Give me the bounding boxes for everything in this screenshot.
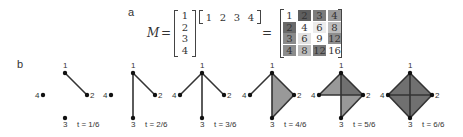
- node-label-3: 3: [270, 120, 275, 129]
- node-label-1: 1: [131, 61, 136, 70]
- node-label-4: 4: [380, 91, 385, 100]
- graph-edge: [180, 73, 202, 95]
- node-label-3: 3: [63, 120, 68, 129]
- graph-edge: [133, 73, 155, 95]
- graph-panel: 1234t = 5/6: [311, 61, 376, 129]
- graph-sequence: 1234t = 1/61234t = 2/61234t = 3/61234t =…: [0, 0, 463, 137]
- time-step-label: t = 2/6: [145, 120, 168, 129]
- time-step-label: t = 6/6: [422, 120, 445, 129]
- node-label-1: 1: [339, 61, 344, 70]
- node-label-3: 3: [200, 120, 205, 129]
- node-label-4: 4: [103, 91, 108, 100]
- node-label-3: 3: [131, 120, 136, 129]
- graph-panel: 1234t = 4/6: [242, 61, 307, 129]
- node-label-2: 2: [90, 91, 95, 100]
- graph-panel: 1234t = 2/6: [103, 61, 168, 129]
- node-label-4: 4: [311, 91, 316, 100]
- graph-panel: 1234t = 6/6: [380, 61, 445, 129]
- graph-node-4: [317, 93, 321, 97]
- time-step-label: t = 3/6: [214, 120, 237, 129]
- graph-node-1: [339, 71, 343, 75]
- graph-node-1: [63, 71, 67, 75]
- graph-node-1: [131, 71, 135, 75]
- node-label-1: 1: [270, 61, 275, 70]
- graph-node-2: [222, 93, 226, 97]
- node-label-3: 3: [408, 120, 413, 129]
- graph-node-4: [178, 93, 182, 97]
- graph-edge: [202, 73, 224, 95]
- node-label-2: 2: [435, 91, 440, 100]
- graph-node-2: [153, 93, 157, 97]
- time-step-label: t = 5/6: [353, 120, 376, 129]
- graph-node-1: [200, 71, 204, 75]
- graph-node-4: [386, 93, 390, 97]
- node-label-4: 4: [35, 91, 40, 100]
- graph-node-2: [292, 93, 296, 97]
- node-label-4: 4: [172, 91, 177, 100]
- node-label-2: 2: [366, 91, 371, 100]
- graph-node-1: [270, 71, 274, 75]
- node-label-4: 4: [242, 91, 247, 100]
- graph-node-2: [361, 93, 365, 97]
- graph-edge: [250, 73, 272, 95]
- node-label-1: 1: [408, 61, 413, 70]
- graph-node-2: [430, 93, 434, 97]
- graph-node-2: [85, 93, 89, 97]
- time-step-label: t = 4/6: [284, 120, 307, 129]
- node-label-3: 3: [339, 120, 344, 129]
- graph-node-4: [109, 93, 113, 97]
- node-label-2: 2: [227, 91, 232, 100]
- graph-panel: 1234t = 1/6: [35, 61, 100, 129]
- node-label-1: 1: [200, 61, 205, 70]
- time-step-label: t = 1/6: [77, 120, 100, 129]
- filled-triangle: [272, 73, 294, 118]
- graph-panel: 1234t = 3/6: [172, 61, 237, 129]
- graph-edge: [65, 73, 87, 95]
- graph-node-4: [41, 93, 45, 97]
- node-label-2: 2: [297, 91, 302, 100]
- node-label-2: 2: [158, 91, 163, 100]
- node-label-1: 1: [63, 61, 68, 70]
- graph-node-1: [408, 71, 412, 75]
- graph-node-4: [248, 93, 252, 97]
